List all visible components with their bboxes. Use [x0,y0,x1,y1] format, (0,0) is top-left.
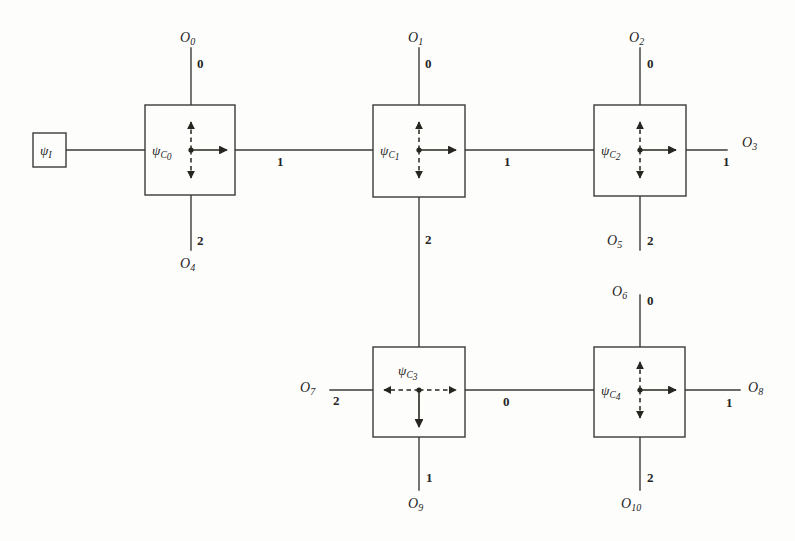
node-psi-I[interactable]: ψI [33,133,66,167]
output-label-O8: O8 [748,380,763,397]
output-label-O6: O6 [612,284,627,301]
diagram-canvas: ψI ψC0 ψC1 ψC2 [0,0,795,541]
leg-index-c2-up: 0 [647,56,654,71]
leg-index-c0-right: 1 [277,154,284,169]
node-psi-C0[interactable]: ψC0 [145,105,235,195]
leg-index-c4-up: 0 [647,293,654,308]
output-label-O4: O4 [180,256,195,273]
node-psi-C2[interactable]: ψC2 [594,105,686,196]
output-label-O2: O2 [629,30,644,47]
output-label-O3: O3 [742,135,757,152]
node-psi-C1[interactable]: ψC1 [373,105,465,197]
output-label-O7: O7 [300,380,316,397]
leg-index-c3-down: 1 [426,470,433,485]
leg-index-c4-right: 1 [726,395,733,410]
leg-index-c4-down: 2 [647,470,654,485]
tensor-network-diagram: ψI ψC0 ψC1 ψC2 [0,0,795,541]
output-labels: O0 O1 O2 O3 O4 O5 O6 O7 O8 O9 O10 [180,30,763,513]
node-psi-C4[interactable]: ψC4 [594,347,685,437]
node-psi-C3[interactable]: ψC3 [373,347,465,437]
leg-index-c0-down: 2 [197,233,204,248]
leg-index-c1-right: 1 [504,154,511,169]
leg-index-c1-up: 0 [425,56,432,71]
output-label-O10: O10 [621,496,641,513]
output-label-O5: O5 [607,233,622,250]
leg-index-c2-right: 1 [723,154,730,169]
leg-index-c3-left: 2 [333,393,340,408]
leg-index-c0-up: 0 [197,56,204,71]
output-label-O9: O9 [408,496,423,513]
output-label-O1: O1 [408,30,423,47]
leg-index-c3-right: 0 [503,394,510,409]
leg-index-c2-down: 2 [647,233,654,248]
output-label-O0: O0 [180,30,195,47]
leg-index-c1-down: 2 [425,232,432,247]
